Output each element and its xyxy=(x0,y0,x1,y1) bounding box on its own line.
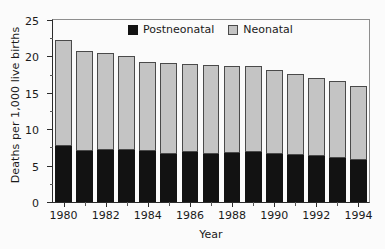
bar-stack xyxy=(182,20,199,202)
bar-segment-postneonatal xyxy=(182,152,199,202)
bar-stack xyxy=(329,20,346,202)
y-tick: 25 xyxy=(47,20,53,21)
bar-segment-neonatal xyxy=(350,86,367,160)
x-minor-tick xyxy=(253,202,254,206)
x-minor-tick xyxy=(127,202,128,206)
bar-segment-neonatal xyxy=(329,81,346,157)
plot-area: 0510152025 19801982198419861988199019921… xyxy=(52,19,370,203)
y-minor-tick xyxy=(50,38,54,39)
x-tick xyxy=(232,202,233,207)
x-tick xyxy=(316,202,317,207)
y-tick-label: 25 xyxy=(25,15,39,28)
bar-stack xyxy=(245,20,262,202)
y-tick: 15 xyxy=(47,93,53,94)
y-minor-tick xyxy=(50,111,54,112)
x-tick-label: 1982 xyxy=(92,209,120,222)
y-tick: 5 xyxy=(47,166,53,167)
y-tick-label: 5 xyxy=(32,160,39,173)
x-minor-tick xyxy=(169,202,170,206)
y-tick: 20 xyxy=(47,56,53,57)
x-tick xyxy=(106,202,107,207)
bar-segment-postneonatal xyxy=(245,152,262,202)
bar-segment-neonatal xyxy=(266,70,283,154)
x-axis-title: Year xyxy=(52,228,370,241)
bar-stack xyxy=(224,20,241,202)
legend-label: Neonatal xyxy=(243,23,293,36)
x-tick xyxy=(358,202,359,207)
y-tick: 10 xyxy=(47,129,53,130)
x-tick-label: 1990 xyxy=(260,209,288,222)
bar-segment-neonatal xyxy=(160,63,177,154)
legend-entry: Postneonatal xyxy=(128,23,214,36)
y-tick-label: 20 xyxy=(25,51,39,64)
bar-segment-neonatal xyxy=(55,40,72,146)
bar-stack xyxy=(76,20,93,202)
x-tick-label: 1988 xyxy=(218,209,246,222)
bar-stack xyxy=(266,20,283,202)
bar-segment-neonatal xyxy=(97,53,114,151)
bar-stack xyxy=(203,20,220,202)
x-tick xyxy=(190,202,191,207)
chart-legend: PostneonatalNeonatal xyxy=(128,23,293,36)
bar-segment-postneonatal xyxy=(266,154,283,202)
bar-segment-postneonatal xyxy=(97,150,114,202)
bar-segment-postneonatal xyxy=(55,146,72,202)
bar-segment-postneonatal xyxy=(203,154,220,202)
legend-entry: Neonatal xyxy=(228,23,293,36)
y-minor-tick xyxy=(50,184,54,185)
x-minor-tick xyxy=(211,202,212,206)
bar-stack xyxy=(97,20,114,202)
y-minor-tick xyxy=(50,147,54,148)
bar-stack xyxy=(55,20,72,202)
y-axis-title: Deaths per 1,000 live births xyxy=(9,5,23,205)
infant-mortality-stacked-bar-chart: Deaths per 1,000 live births 0510152025 … xyxy=(0,0,385,249)
y-tick-label: 10 xyxy=(25,124,39,137)
y-tick-label: 15 xyxy=(25,87,39,100)
bar-segment-postneonatal xyxy=(118,150,135,202)
x-tick-label: 1984 xyxy=(134,209,162,222)
bar-stack xyxy=(287,20,304,202)
legend-swatch-icon xyxy=(228,25,238,35)
bar-segment-neonatal xyxy=(224,66,241,153)
bar-segment-neonatal xyxy=(118,56,135,149)
y-tick: 0 xyxy=(47,202,53,203)
bar-stack xyxy=(139,20,156,202)
x-tick-label: 1994 xyxy=(344,209,372,222)
x-tick xyxy=(64,202,65,207)
x-minor-tick xyxy=(337,202,338,206)
bar-stack xyxy=(118,20,135,202)
bar-segment-neonatal xyxy=(182,64,199,152)
x-minor-tick xyxy=(295,202,296,206)
x-tick-label: 1992 xyxy=(302,209,330,222)
x-tick xyxy=(148,202,149,207)
bar-stack xyxy=(160,20,177,202)
bar-segment-postneonatal xyxy=(139,151,156,202)
bar-segment-postneonatal xyxy=(160,154,177,202)
bar-segment-neonatal xyxy=(308,78,325,156)
bar-segment-neonatal xyxy=(203,65,220,154)
bar-segment-neonatal xyxy=(76,51,93,151)
x-tick xyxy=(274,202,275,207)
y-tick-label: 0 xyxy=(32,197,39,210)
bar-segment-neonatal xyxy=(245,66,262,152)
y-minor-tick xyxy=(50,75,54,76)
legend-label: Postneonatal xyxy=(143,23,214,36)
bar-segment-neonatal xyxy=(287,74,304,156)
bar-segment-postneonatal xyxy=(76,151,93,202)
bar-stack xyxy=(308,20,325,202)
bar-segment-postneonatal xyxy=(329,158,346,202)
bar-segment-postneonatal xyxy=(224,153,241,202)
bar-segment-neonatal xyxy=(139,62,156,151)
x-tick-label: 1986 xyxy=(176,209,204,222)
bar-segment-postneonatal xyxy=(308,156,325,202)
bar-stack xyxy=(350,20,367,202)
x-tick-label: 1980 xyxy=(50,209,78,222)
x-minor-tick xyxy=(85,202,86,206)
bar-segment-postneonatal xyxy=(350,160,367,202)
legend-swatch-icon xyxy=(128,25,138,35)
bar-segment-postneonatal xyxy=(287,155,304,202)
